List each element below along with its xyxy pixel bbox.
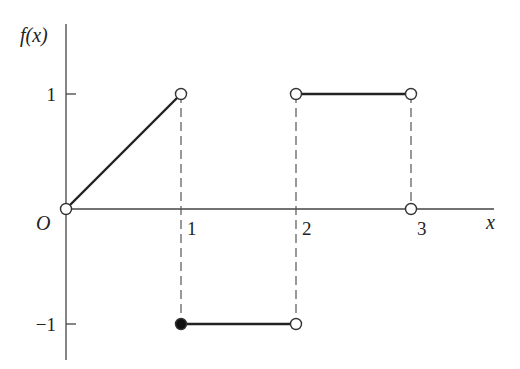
open-point <box>291 319 302 330</box>
closed-point <box>176 319 187 330</box>
y-tick-label: 1 <box>47 84 57 105</box>
y-axis-label: f(x) <box>20 24 48 47</box>
origin-label: O <box>36 212 50 234</box>
x-tick-label: 2 <box>302 218 312 239</box>
y-tick-label: −1 <box>36 314 56 335</box>
open-point <box>291 89 302 100</box>
piecewise-function-plot: 1231−1 f(x) x O <box>0 0 520 369</box>
function-segment <box>66 94 181 209</box>
open-point <box>176 89 187 100</box>
x-tick-label: 3 <box>417 218 427 239</box>
axes <box>66 24 494 360</box>
axis-labels: f(x) x O <box>20 24 495 234</box>
open-point <box>406 89 417 100</box>
open-point <box>61 204 72 215</box>
x-tick-label: 1 <box>187 218 197 239</box>
x-axis-label: x <box>485 211 495 233</box>
open-point <box>406 204 417 215</box>
